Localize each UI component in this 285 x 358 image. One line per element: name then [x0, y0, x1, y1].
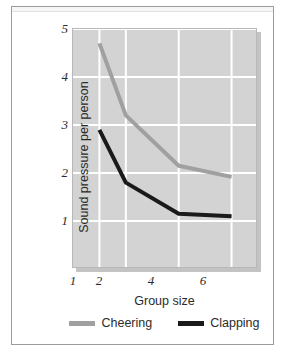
chart-canvas: [73, 29, 257, 268]
legend-label-clapping: Clapping: [210, 317, 259, 330]
legend-item-cheering: Cheering: [69, 317, 152, 330]
x-tick-label: 6: [195, 274, 211, 287]
x-axis-title: Group size: [72, 294, 257, 308]
figure-frame: 5 4 3 2 1 1 2 4 6 Sound pressure per per…: [11, 6, 274, 345]
frame-top-band: [12, 7, 273, 12]
series-line-cheering: [99, 43, 231, 176]
legend-line-swatch-cheering: [69, 321, 95, 326]
x-tick-label: 4: [143, 274, 159, 287]
x-tick-label: 1: [65, 274, 81, 287]
y-axis-title-wrapper: Sound pressure per person: [46, 22, 62, 272]
x-tick-label: 2: [91, 274, 107, 287]
legend-label-cheering: Cheering: [101, 317, 152, 330]
legend-line-swatch-clapping: [178, 321, 204, 326]
legend-item-clapping: Clapping: [178, 317, 259, 330]
y-axis-title: Sound pressure per person: [77, 57, 91, 257]
chart-legend: Cheering Clapping: [62, 317, 267, 330]
plot-area: [72, 28, 257, 268]
